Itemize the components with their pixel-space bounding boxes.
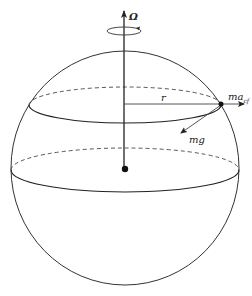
mass-point bbox=[219, 102, 224, 107]
centrifugal-label-subscript: cf bbox=[243, 97, 250, 105]
omega-label: Ω bbox=[128, 11, 138, 22]
centrifugal-label-base: ma bbox=[228, 91, 243, 102]
equator-front bbox=[11, 170, 239, 192]
upper-latitude-front bbox=[29, 105, 221, 123]
upper-latitude-back bbox=[29, 87, 221, 105]
rotating-sphere-diagram: Ω r macf mg bbox=[0, 0, 252, 296]
gravity-force-label: mg bbox=[189, 134, 205, 145]
radius-label: r bbox=[161, 92, 167, 103]
center-point bbox=[122, 166, 128, 172]
centrifugal-force-label: macf bbox=[228, 91, 251, 105]
